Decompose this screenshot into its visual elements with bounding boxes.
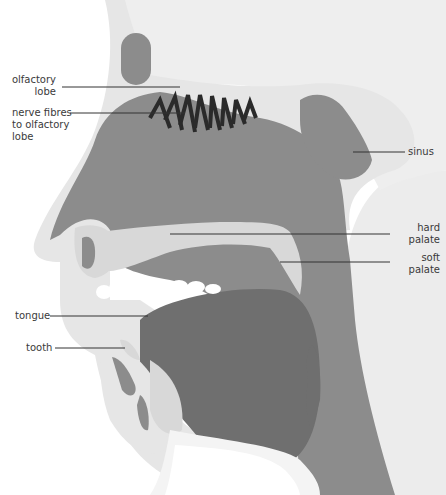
label-nerve-fibres: nerve fibres to olfactory lobe: [12, 107, 72, 143]
label-soft-palate: soft palate: [390, 252, 440, 276]
label-olfactory-lobe: olfactory lobe: [10, 74, 56, 98]
anatomy-illustration: [0, 0, 446, 495]
label-tooth: tooth: [26, 342, 52, 354]
label-tongue: tongue: [15, 310, 50, 322]
head-cross-section-diagram: olfactory lobe nerve fibres to olfactory…: [0, 0, 446, 495]
olfactory-lobe-shape: [121, 33, 151, 85]
label-hard-palate: hard palate: [390, 222, 440, 246]
label-sinus: sinus: [408, 146, 434, 158]
